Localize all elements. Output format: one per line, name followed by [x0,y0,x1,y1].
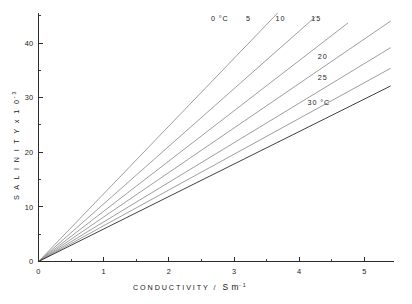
curve-label: 20 [318,52,328,61]
axes-group [39,13,394,262]
y-tick-label: 20 [25,148,34,157]
chart-canvas: 012345010203040 0 °C51015202530 °C CONDU… [0,0,412,304]
chart-figure: 012345010203040 0 °C51015202530 °C CONDU… [0,0,412,304]
curve-label: 30 °C [308,98,331,107]
series-line [39,86,391,261]
series-group [39,13,391,262]
series-line [39,23,349,262]
curve-label: 0 °C [211,14,229,23]
x-tick-label: 4 [297,267,301,276]
x-tick-label: 2 [167,267,171,276]
svg-text:CONDUCTIVITY /S m-1: CONDUCTIVITY /S m-1 [133,282,248,292]
y-tick-label: 30 [25,93,34,102]
y-axis-title: S A L I N I T Y x 1 0-3 [11,90,21,200]
x-tick-label: 3 [232,267,236,276]
y-tick-label: 10 [25,203,34,212]
x-tick-label: 1 [101,267,105,276]
x-axis-title: CONDUCTIVITY /S m-1 [133,282,248,292]
svg-text:S A L I N I T Y x 1 0-3: S A L I N I T Y x 1 0-3 [11,90,21,200]
x-tick-label: 5 [362,267,366,276]
x-tick-label: 0 [36,267,40,276]
series-line [39,17,316,262]
tick-label-group: 012345010203040 [25,39,367,276]
series-line [39,68,391,261]
series-line [39,13,278,262]
series-line [39,21,391,261]
y-tick-label: 40 [25,39,34,48]
curve-label: 15 [311,14,321,23]
series-line [39,48,391,262]
curve-label: 10 [275,14,285,23]
y-tick-label: 0 [29,257,33,266]
curve-label: 25 [318,73,328,82]
curve-label: 5 [246,14,251,23]
